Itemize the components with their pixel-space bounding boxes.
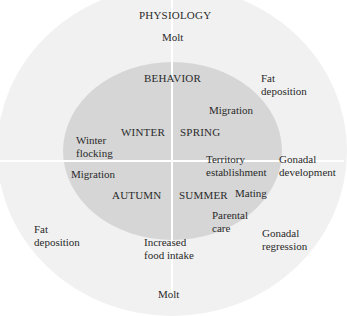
molt-top-label: Molt bbox=[162, 31, 183, 44]
winter-flocking-label: Winter flocking bbox=[76, 134, 113, 159]
territory-establishment-label: Territory establishment bbox=[206, 153, 267, 178]
parental-care-label: Parental care bbox=[212, 209, 248, 234]
season-winter: WINTER bbox=[121, 126, 165, 139]
fat-deposition-autumn-label: Fat deposition bbox=[34, 223, 80, 248]
gonadal-development-label: Gonadal development bbox=[279, 153, 336, 178]
fat-deposition-spring-label: Fat deposition bbox=[261, 72, 307, 97]
physiology-title: PHYSIOLOGY bbox=[139, 9, 211, 22]
season-autumn: AUTUMN bbox=[112, 189, 161, 202]
season-spring: SPRING bbox=[180, 126, 220, 139]
molt-bottom-label: Molt bbox=[158, 288, 179, 301]
behavior-title: BEHAVIOR bbox=[144, 72, 201, 85]
autumn-migration-label: Migration bbox=[71, 168, 115, 181]
gonadal-regression-label: Gonadal regression bbox=[262, 227, 307, 252]
increased-food-intake-label: Increased food intake bbox=[144, 236, 194, 261]
spring-migration-label: Migration bbox=[209, 104, 253, 117]
season-summer: SUMMER bbox=[179, 189, 228, 202]
mating-label: Mating bbox=[235, 187, 267, 200]
